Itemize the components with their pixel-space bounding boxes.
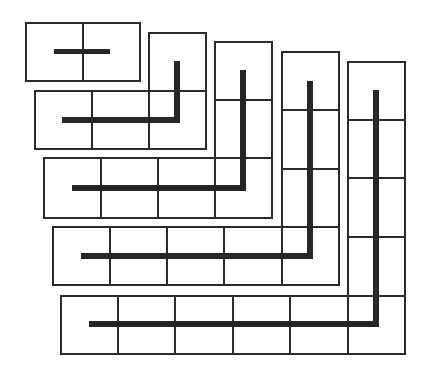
vertical-bar	[174, 61, 180, 123]
horizontal-bar	[81, 253, 313, 259]
vertical-bar	[307, 81, 313, 259]
vertical-bar	[373, 90, 379, 327]
horizontal-bar	[62, 117, 180, 123]
horizontal-bar	[54, 49, 110, 54]
horizontal-bar	[89, 321, 379, 327]
horizontal-bar	[72, 185, 246, 191]
gnomon-diagram	[0, 0, 425, 375]
vertical-bar	[240, 70, 246, 191]
